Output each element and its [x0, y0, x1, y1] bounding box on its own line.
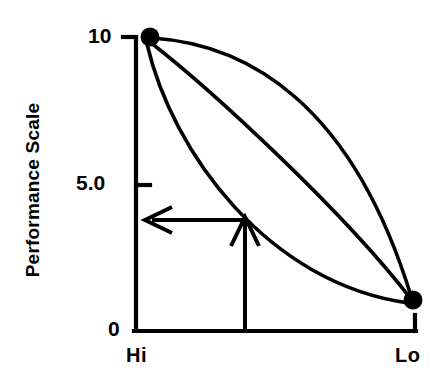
y-axis-title: Performance Scale	[23, 90, 47, 290]
x-tick-label-lo: Lo	[395, 345, 420, 365]
curve-middle	[150, 42, 411, 299]
x-tick-label-hi: Hi	[126, 345, 147, 365]
curve-group	[147, 38, 411, 303]
y-tick-label-0: 0	[108, 318, 120, 339]
chart-canvas	[0, 0, 441, 392]
marker-lo-endpoint	[404, 291, 423, 310]
performance-scale-figure: Performance Scale 10 5.0 0 Hi Lo	[0, 0, 441, 392]
axis-group	[123, 37, 416, 331]
y-tick-label-10: 10	[88, 25, 111, 46]
y-tick-label-5: 5.0	[76, 172, 105, 193]
marker-hi-endpoint	[141, 28, 160, 47]
annotation-group	[145, 207, 259, 331]
